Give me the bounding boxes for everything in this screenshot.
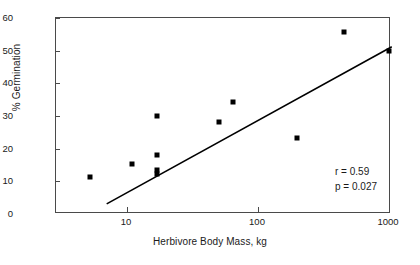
y-tick-label: 0	[0, 208, 13, 219]
p-value: p = 0.027	[335, 179, 377, 194]
scatter-chart-figure: % Germination 0102030405060 r = 0.59 p =…	[0, 0, 420, 265]
y-tick-label: 40	[0, 77, 13, 88]
y-tick-label: 50	[0, 44, 13, 55]
y-tick-label: 20	[0, 142, 13, 153]
y-tick-label: 30	[0, 110, 13, 121]
correlation-value: r = 0.59	[335, 164, 377, 179]
y-tick-label: 60	[0, 12, 13, 23]
y-tick-label: 10	[0, 175, 13, 186]
plot-area: r = 0.59 p = 0.027	[55, 17, 390, 213]
statistics-annotation: r = 0.59 p = 0.027	[335, 164, 377, 194]
x-axis-title: Herbivore Body Mass, kg	[0, 236, 420, 247]
x-tick-label: 1000	[363, 216, 413, 227]
x-tick-label: 10	[101, 216, 151, 227]
x-tick-label: 100	[232, 216, 282, 227]
x-tick-mark	[389, 207, 390, 212]
